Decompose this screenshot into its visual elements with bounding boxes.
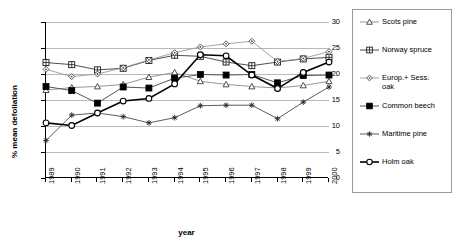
x-axis-label: year (45, 228, 328, 237)
y-tick-label: 25 (300, 44, 340, 52)
x-tick-label: 2000 (331, 167, 339, 184)
legend-item-label: Common beech (382, 100, 435, 110)
y-tick-label: 15 (300, 96, 340, 104)
x-tick-mark (225, 178, 226, 182)
legend-marker-icon (358, 16, 382, 28)
x-tick-mark (148, 178, 149, 182)
legend: Scots pineNorway spruceEurop.+ Sess. oak… (352, 9, 452, 193)
plot-region (45, 22, 328, 178)
x-tick-mark (45, 178, 46, 182)
legend-item-label: Maritime pine (382, 128, 427, 138)
x-tick-label: 1996 (228, 167, 236, 184)
y-tick-mark (41, 100, 45, 101)
legend-marker-icon (358, 100, 382, 112)
y-tick-mark (41, 74, 45, 75)
x-tick-label: 1989 (48, 167, 56, 184)
series-holm-oak (43, 52, 332, 128)
y-tick-label: 10 (300, 122, 340, 130)
legend-item-label: Europ.+ Sess. oak (382, 72, 429, 91)
legend-marker-icon (358, 156, 382, 168)
y-axis-label: % mean defoliation (10, 85, 19, 158)
series-common-beech (43, 72, 332, 107)
legend-item[interactable]: Common beech (358, 100, 447, 128)
legend-item[interactable]: Scots pine (358, 16, 447, 44)
x-tick-label: 1994 (177, 167, 185, 184)
series-layer (46, 22, 329, 178)
series-maritime-pine (43, 84, 332, 143)
y-tick-mark (41, 48, 45, 49)
x-tick-label: 1997 (254, 167, 262, 184)
x-tick-mark (277, 178, 278, 182)
y-tick-label: 30 (300, 18, 340, 26)
x-tick-label: 1999 (305, 167, 313, 184)
chart-screenshot: % mean defoliation year 051015202530 198… (0, 0, 460, 248)
y-tick-label: 20 (300, 70, 340, 78)
y-tick-mark (41, 152, 45, 153)
x-tick-label: 1990 (74, 167, 82, 184)
legend-marker-icon (358, 72, 382, 84)
legend-marker-icon (358, 128, 382, 140)
x-tick-label: 1998 (280, 167, 288, 184)
legend-item[interactable]: Holm oak (358, 156, 447, 184)
chart-area: % mean defoliation year 051015202530 198… (0, 0, 340, 248)
legend-item[interactable]: Europ.+ Sess. oak (358, 72, 447, 100)
x-tick-mark (328, 178, 329, 182)
legend-marker-icon (358, 44, 382, 56)
legend-item-label: Norway spruce (382, 44, 432, 54)
y-tick-mark (41, 22, 45, 23)
legend-item-label: Scots pine (382, 16, 417, 26)
x-tick-label: 1991 (99, 167, 107, 184)
series-europ-sess-oak (43, 38, 332, 79)
x-tick-label: 1992 (125, 167, 133, 184)
legend-item[interactable]: Maritime pine (358, 128, 447, 156)
x-tick-label: 1995 (202, 167, 210, 184)
x-tick-label: 1993 (151, 167, 159, 184)
legend-item-label: Holm oak (382, 156, 414, 166)
x-tick-mark (71, 178, 72, 182)
y-tick-label: 5 (300, 148, 340, 156)
x-tick-mark (174, 178, 175, 182)
y-tick-mark (41, 126, 45, 127)
x-tick-mark (251, 178, 252, 182)
legend-item[interactable]: Norway spruce (358, 44, 447, 72)
